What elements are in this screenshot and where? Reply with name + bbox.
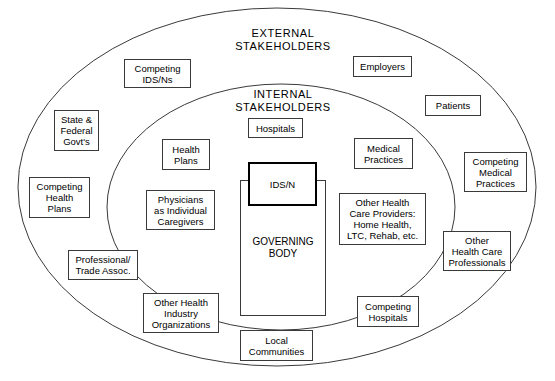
node-competing-health-plans: Competing Health Plans — [29, 177, 90, 218]
node-patients: Patients — [425, 95, 481, 116]
node-other-health-care-professionals: Other Health Care Professionals — [443, 231, 511, 271]
node-hospitals: Hospitals — [248, 118, 303, 138]
node-competing-hospitals: Competing Hospitals — [357, 296, 419, 327]
diagram-canvas: EXTERNAL STAKEHOLDERS INTERNAL STAKEHOLD… — [0, 0, 555, 381]
node-competing-ids-ns: Competing IDS/Ns — [124, 59, 191, 88]
node-professional-trade-assoc: Professional/ Trade Assoc. — [68, 250, 138, 280]
internal-stakeholders-label: INTERNAL STAKEHOLDERS — [183, 88, 383, 114]
node-competing-medical-practices: Competing Medical Practices — [464, 152, 527, 192]
node-local-communities: Local Communities — [240, 330, 313, 361]
governing-body-label: GOVERNING BODY — [233, 236, 333, 260]
external-stakeholders-label: EXTERNAL STAKEHOLDERS — [183, 27, 383, 53]
node-medical-practices: Medical Practices — [354, 138, 413, 169]
node-physicians-as-individual-caregivers: Physicians as Individual Caregivers — [146, 190, 215, 230]
node-other-health-industry-organizations: Other Health Industry Organizations — [143, 293, 219, 333]
node-other-health-care-providers: Other Health Care Providers: Home Health… — [339, 193, 426, 245]
node-employers: Employers — [353, 56, 412, 77]
core-idsn-box: IDS/N — [248, 162, 317, 206]
node-state-federal-govts: State & Federal Govt's — [54, 110, 99, 151]
node-health-plans: Health Plans — [162, 139, 210, 170]
